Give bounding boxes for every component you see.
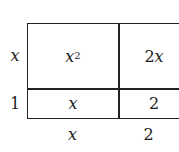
cell-coef: 2 <box>144 47 154 66</box>
cell-x-squared: x2 <box>28 24 118 88</box>
cell-var: x <box>155 47 164 66</box>
row-label-1: 1 <box>6 88 24 119</box>
col-label-2: 2 <box>118 122 179 146</box>
row-label-x: x <box>6 23 24 87</box>
cell-x: x <box>28 89 118 118</box>
area-model-grid: x2 2x x 2 <box>27 23 179 119</box>
cell-value: 2 <box>149 94 159 113</box>
col-label-x: x <box>27 122 118 146</box>
cell-var: x <box>68 94 77 113</box>
cell-var: x <box>65 47 74 66</box>
cell-2: 2 <box>119 89 179 118</box>
cell-2x: 2x <box>119 24 179 88</box>
